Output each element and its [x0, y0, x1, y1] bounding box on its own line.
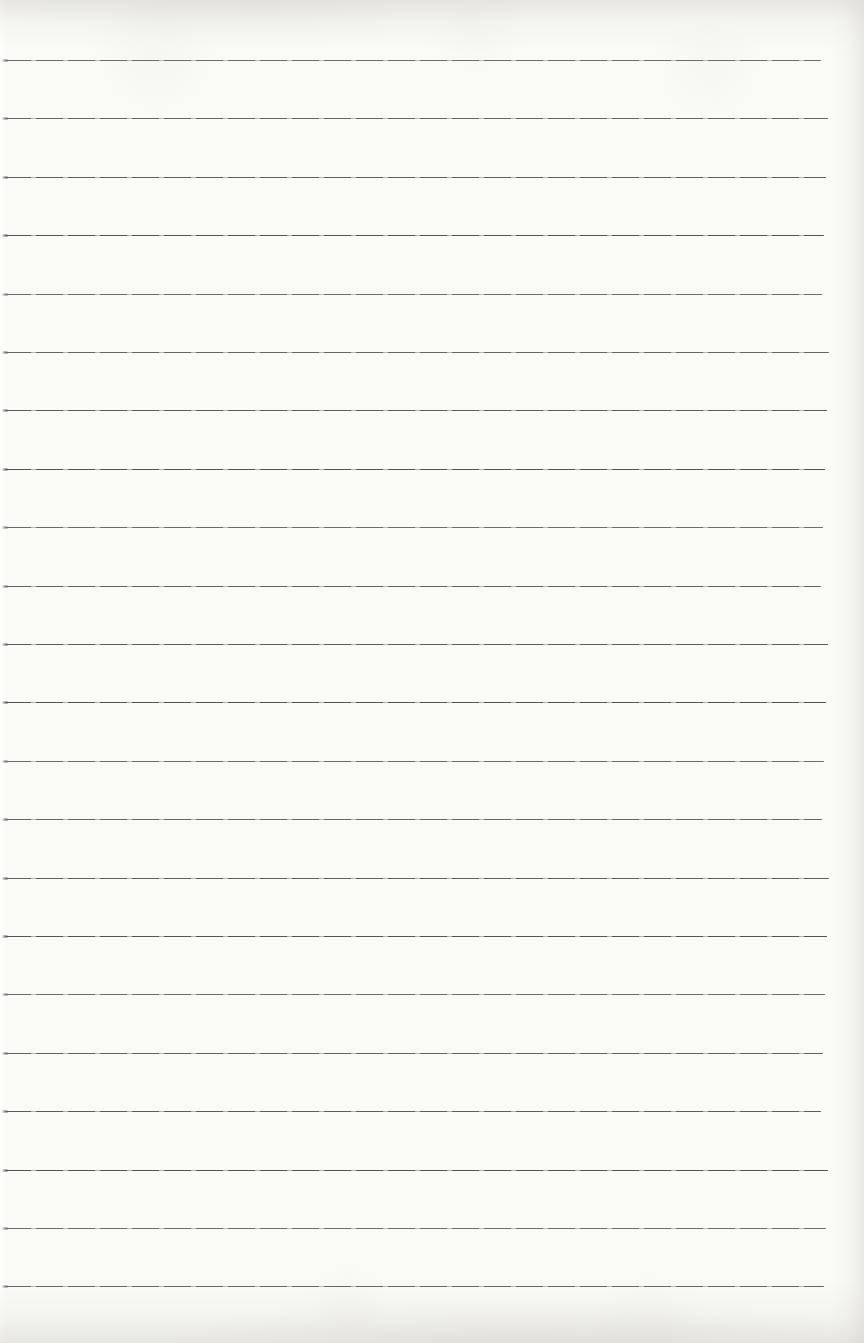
ruled-line: [4, 410, 827, 411]
ruled-line: [4, 1053, 823, 1054]
ruled-line: [4, 702, 826, 703]
ruled-line: [4, 819, 822, 820]
ruled-line: [4, 994, 825, 995]
ruled-line: [4, 60, 821, 61]
ruled-line: [4, 352, 829, 353]
ruled-line: [4, 294, 822, 295]
ruled-line: [4, 469, 825, 470]
ruled-line: [4, 235, 824, 236]
ruled-line: [4, 177, 826, 178]
ruled-line: [4, 586, 821, 587]
ruled-line: [4, 118, 828, 119]
ruled-line: [4, 644, 828, 645]
paper-grain-texture: [0, 0, 864, 1343]
notebook-page: [0, 0, 864, 1343]
ruled-line: [4, 1170, 828, 1171]
ruled-line: [4, 527, 823, 528]
ruled-line: [4, 1111, 821, 1112]
page-edge-vignette: [0, 0, 864, 1343]
ruled-line: [4, 1286, 824, 1287]
ruled-line: [4, 1228, 826, 1229]
ruled-line: [4, 761, 824, 762]
ruled-line: [4, 936, 827, 937]
ruled-line: [4, 878, 829, 879]
